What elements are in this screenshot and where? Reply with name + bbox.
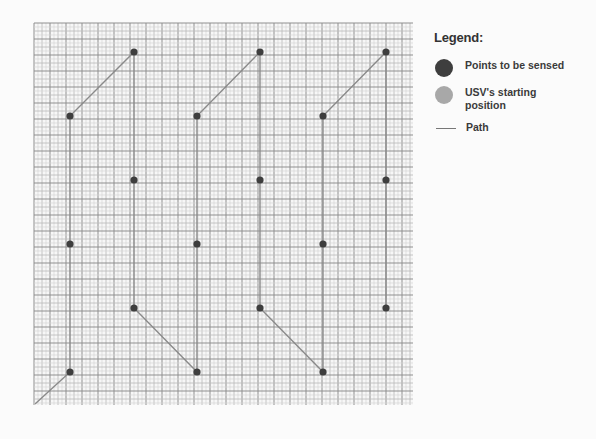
sensed-point — [193, 112, 200, 119]
legend-label: USV's starting position — [465, 86, 545, 112]
sensed-point — [130, 304, 137, 311]
gray-circle-icon — [435, 86, 453, 104]
legend: Legend: Points to be sensed USV's starti… — [434, 30, 594, 143]
grid-background — [34, 23, 413, 405]
line-icon — [436, 128, 456, 129]
sensed-point — [319, 112, 326, 119]
legend-item-points: Points to be sensed — [434, 59, 594, 77]
legend-label: Points to be sensed — [465, 59, 564, 72]
sensed-point — [193, 368, 200, 375]
legend-item-start: USV's starting position — [434, 86, 594, 112]
legend-label: Path — [466, 121, 489, 134]
sensed-point — [382, 176, 389, 183]
sensed-point — [382, 48, 389, 55]
sensed-point — [130, 48, 137, 55]
dark-circle-icon — [435, 59, 453, 77]
sensed-point — [256, 304, 263, 311]
sensed-point — [256, 176, 263, 183]
sensed-point — [130, 176, 137, 183]
sensed-point — [256, 48, 263, 55]
sensed-point — [319, 368, 326, 375]
sensed-point — [382, 304, 389, 311]
legend-item-path: Path — [434, 121, 594, 134]
sensed-point — [66, 240, 73, 247]
sensed-point — [66, 112, 73, 119]
legend-title: Legend: — [434, 30, 594, 45]
sensed-point — [193, 240, 200, 247]
sensed-point — [66, 368, 73, 375]
sensed-point — [319, 240, 326, 247]
